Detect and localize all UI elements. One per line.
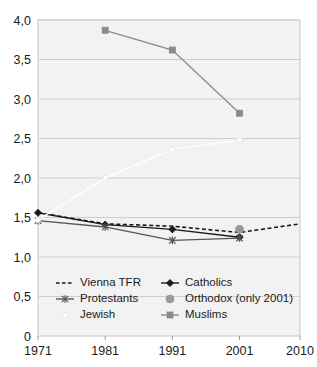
y-tick-label: 0,5 (14, 290, 31, 304)
legend-marker-circle-dot-icon (166, 295, 174, 303)
legend-circle-icon (166, 295, 174, 303)
data-point-marker (35, 217, 40, 222)
legend-label: Muslims (185, 308, 227, 320)
y-tick-label: 3,0 (14, 93, 31, 107)
y-axis-tick-labels: 00,51,01,52,02,53,03,54,0 (14, 14, 31, 344)
legend-label: Orthodox (only 2001) (185, 292, 293, 304)
x-tick-label: 2001 (226, 344, 254, 358)
y-tick-label: 3,5 (14, 53, 31, 67)
y-tick-label: 1,0 (14, 251, 31, 265)
legend-item-orthodox-only-2001[interactable]: Orthodox (only 2001) (166, 292, 293, 304)
data-point-marker (237, 110, 243, 116)
x-axis-ticks (38, 336, 300, 340)
chart-container: 00,51,01,52,02,53,03,54,0 19711981199120… (0, 0, 317, 367)
legend-marker-circle-open-faint-icon (62, 312, 67, 317)
x-tick-label: 1991 (158, 344, 186, 358)
data-point-marker (102, 27, 108, 33)
data-point-marker (237, 137, 242, 142)
x-tick-label: 1981 (91, 344, 119, 358)
data-point-marker (170, 147, 175, 152)
fertility-line-chart: 00,51,01,52,02,53,03,54,0 19711981199120… (0, 0, 317, 367)
x-tick-label: 2010 (286, 344, 314, 358)
y-tick-label: 4,0 (14, 14, 31, 28)
series-orthodox-only-2001 (236, 225, 244, 233)
x-tick-label: 1971 (24, 344, 52, 358)
y-tick-label: 0 (24, 330, 31, 344)
legend-label: Protestants (80, 292, 138, 304)
legend-circle-open-icon (62, 312, 67, 317)
legend-label: Vienna TFR (80, 276, 141, 288)
legend-label: Jewish (80, 308, 115, 320)
y-tick-label: 2,0 (14, 172, 31, 186)
y-tick-label: 2,5 (14, 132, 31, 146)
x-axis-tick-labels: 19711981199120012010 (24, 344, 314, 358)
data-point-marker (103, 175, 108, 180)
legend-square-icon (167, 312, 173, 318)
data-point-marker (236, 225, 244, 233)
y-tick-label: 1,5 (14, 211, 31, 225)
legend-label: Catholics (185, 276, 233, 288)
data-point-marker (169, 47, 175, 53)
